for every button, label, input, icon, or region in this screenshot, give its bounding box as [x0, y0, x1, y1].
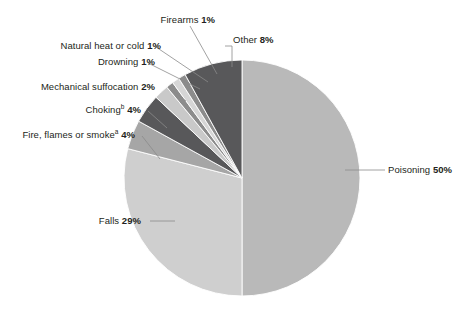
slice-label-firearms: Firearms 1% [161, 14, 215, 25]
slice-label-drowning-name: Drowning [98, 56, 139, 67]
slice-label-choking-name: Choking [86, 104, 121, 115]
slice-label-natural-pct: 1% [147, 40, 161, 51]
pie-slice-group [124, 60, 360, 296]
slice-label-poisoning-pct: 50% [433, 164, 452, 175]
slice-label-falls: Falls 29% [99, 215, 141, 226]
slice-label-fire-pct: 4% [121, 129, 135, 140]
slice-label-firearms-pct: 1% [201, 14, 215, 25]
slice-label-other: Other 8% [233, 34, 274, 45]
slice-label-mechanical-pct: 2% [141, 81, 155, 92]
slice-label-drowning-pct: 1% [141, 56, 155, 67]
slice-label-choking-pct: 4% [127, 104, 141, 115]
slice-label-falls-pct: 29% [122, 215, 141, 226]
pie-slice-poisoning[interactable] [242, 60, 360, 296]
pie-chart-figure: Poisoning 50% Falls 29% Fire, flames or … [0, 0, 455, 317]
slice-label-choking-sup: b [121, 103, 125, 110]
slice-label-natural-name: Natural heat or cold [61, 40, 145, 51]
slice-label-poisoning: Poisoning 50% [388, 164, 452, 175]
slice-label-drowning: Drowning 1% [98, 56, 155, 67]
slice-label-mechanical: Mechanical suffocation 2% [41, 81, 155, 92]
slice-label-poisoning-name: Poisoning [388, 164, 430, 175]
slice-label-mechanical-name: Mechanical suffocation [41, 81, 139, 92]
slice-label-falls-name: Falls [99, 215, 119, 226]
slice-label-firearms-name: Firearms [161, 14, 199, 25]
slice-label-choking: Chokingb 4% [86, 104, 141, 115]
slice-label-fire-sup: a [115, 128, 119, 135]
slice-label-natural: Natural heat or cold 1% [61, 40, 161, 51]
slice-label-other-pct: 8% [260, 34, 274, 45]
slice-label-fire-name: Fire, flames or smoke [22, 129, 114, 140]
slice-label-other-name: Other [233, 34, 257, 45]
slice-label-fire: Fire, flames or smokea 4% [22, 129, 135, 140]
